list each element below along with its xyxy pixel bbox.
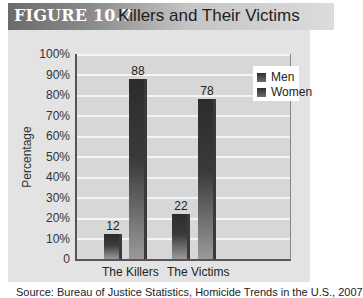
legend-swatch-men <box>257 73 266 82</box>
gridline <box>77 156 290 158</box>
bar-victims-women <box>198 99 216 259</box>
bar-killers-women <box>129 79 147 259</box>
y-tick-90: 90% <box>20 68 70 82</box>
legend-label-men: Men <box>271 70 294 84</box>
gridline <box>77 177 290 179</box>
y-tick-70: 70% <box>20 109 70 123</box>
x-tick-victims: The Victims <box>167 265 229 279</box>
gridline <box>77 136 290 138</box>
legend-item-women: Women <box>257 85 312 99</box>
gridline <box>77 54 290 56</box>
y-tick-100: 100% <box>20 47 70 61</box>
figure-number: FIGURE 10.7 <box>14 6 133 25</box>
data-label-victims-men: 22 <box>166 199 196 213</box>
data-label-victims-women: 78 <box>192 84 222 98</box>
y-tick-60: 60% <box>20 129 70 143</box>
gridline <box>77 115 290 117</box>
y-tick-40: 40% <box>20 170 70 184</box>
source-line: Source: Bureau of Justice Statistics, Ho… <box>16 286 363 298</box>
y-tick-30: 30% <box>20 191 70 205</box>
y-tick-0: 0 <box>20 252 70 266</box>
data-label-killers-women: 88 <box>123 64 153 78</box>
legend-swatch-women <box>257 88 266 97</box>
y-tick-20: 20% <box>20 211 70 225</box>
data-label-killers-men: 12 <box>98 219 128 233</box>
chart-legend: Men Women <box>253 66 299 101</box>
y-tick-80: 80% <box>20 88 70 102</box>
bar-victims-men <box>172 214 190 259</box>
legend-item-men: Men <box>257 70 294 84</box>
legend-label-women: Women <box>271 85 312 99</box>
figure-title: Killers and Their Victims <box>118 6 300 26</box>
x-tick-killers: The Killers <box>102 265 159 279</box>
bar-killers-men <box>104 234 122 259</box>
y-tick-50: 50% <box>20 150 70 164</box>
y-tick-10: 10% <box>20 232 70 246</box>
